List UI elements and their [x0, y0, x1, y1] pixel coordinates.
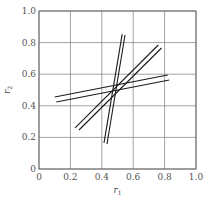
x-axis-ticks: 00.20.40.60.81.0 — [36, 172, 203, 182]
x-axis-label: r1 — [113, 185, 121, 196]
line-1 — [55, 75, 168, 97]
x-tick-label: 1.0 — [189, 172, 204, 182]
x-tick-label: 0.8 — [157, 172, 172, 182]
x-tick-label: 0 — [36, 172, 42, 182]
chart: 00.20.40.60.81.0 00.20.40.60.81.0 r1 r2 — [0, 0, 206, 199]
y-tick-label: 0.4 — [22, 101, 37, 111]
line-5 — [104, 34, 122, 143]
y-tick-label: 0.2 — [22, 132, 36, 142]
x-tick-label: 0.2 — [63, 172, 77, 182]
line-4 — [79, 48, 162, 130]
y-tick-label: 1.0 — [22, 6, 37, 16]
y-tick-label: 0.6 — [22, 69, 37, 79]
y-axis-ticks: 00.20.40.60.81.0 — [22, 6, 37, 174]
y-axis-label: r2 — [2, 86, 13, 94]
y-tick-label: 0.8 — [22, 38, 37, 48]
data-lines — [55, 34, 170, 144]
x-tick-label: 0.6 — [126, 172, 141, 182]
y-tick-label: 0 — [30, 164, 36, 174]
x-tick-label: 0.4 — [95, 172, 110, 182]
